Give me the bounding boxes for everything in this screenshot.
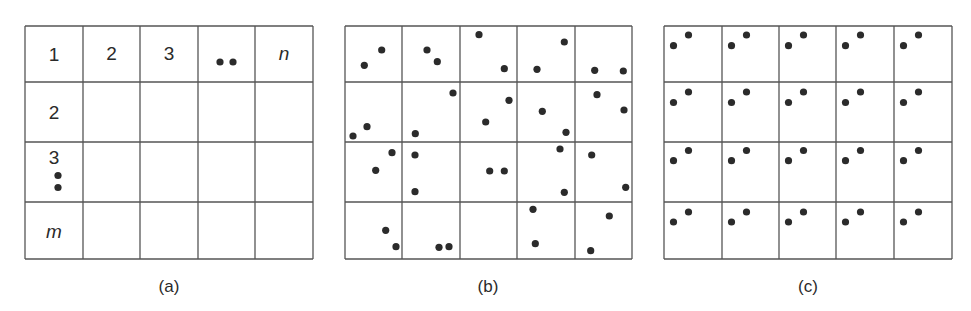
dot — [800, 88, 807, 95]
dot — [842, 42, 849, 49]
dot — [54, 184, 61, 191]
dot — [685, 208, 692, 215]
dot — [743, 147, 750, 154]
dot — [685, 147, 692, 154]
dot — [435, 244, 442, 251]
dot — [670, 157, 677, 164]
dot — [915, 208, 922, 215]
row-header-1: 1 — [49, 44, 60, 65]
caption-a: (a) — [159, 277, 180, 296]
row-header-3: 3 — [49, 147, 60, 168]
dot — [915, 88, 922, 95]
dot — [857, 31, 864, 38]
dot — [412, 130, 419, 137]
dot — [743, 88, 750, 95]
dot — [411, 188, 418, 195]
dot — [349, 132, 356, 139]
dot — [529, 206, 536, 213]
figure-canvas: 23n123m (a) (b) (c) — [0, 0, 971, 311]
dot — [556, 145, 563, 152]
column-header-n: n — [279, 43, 290, 64]
dot — [620, 67, 627, 74]
dot — [562, 129, 569, 136]
dot — [475, 31, 482, 38]
dot — [388, 149, 395, 156]
dot — [900, 42, 907, 49]
dot — [501, 65, 508, 72]
dot — [728, 218, 735, 225]
dot — [606, 212, 613, 219]
dot — [378, 46, 385, 53]
dot — [900, 99, 907, 106]
dot — [423, 46, 430, 53]
panel-b-random-dots — [345, 26, 632, 259]
dot — [449, 89, 456, 96]
dot — [505, 97, 512, 104]
dot — [445, 243, 452, 250]
dot — [216, 58, 223, 65]
dot — [434, 58, 441, 65]
dot — [501, 167, 508, 174]
row-header-2: 2 — [49, 102, 60, 123]
dot — [900, 218, 907, 225]
dot — [670, 99, 677, 106]
dot — [593, 91, 600, 98]
dot — [532, 240, 539, 247]
dot — [785, 157, 792, 164]
panel-c-uniform-dots — [664, 26, 952, 259]
dot — [857, 208, 864, 215]
dot — [372, 167, 379, 174]
row-header-m: m — [46, 221, 62, 242]
dot — [482, 118, 489, 125]
dot — [785, 99, 792, 106]
dot — [620, 106, 627, 113]
dot — [392, 243, 399, 250]
dot — [670, 42, 677, 49]
dot — [670, 218, 677, 225]
dot — [800, 208, 807, 215]
dot — [857, 147, 864, 154]
dot — [842, 157, 849, 164]
dot — [915, 147, 922, 154]
dot — [857, 88, 864, 95]
dot — [842, 99, 849, 106]
dot — [728, 42, 735, 49]
caption-b: (b) — [478, 277, 499, 296]
dot — [587, 247, 594, 254]
caption-c: (c) — [798, 277, 818, 296]
column-header-2: 2 — [106, 43, 117, 64]
dot — [743, 31, 750, 38]
dot — [486, 167, 493, 174]
dot — [561, 38, 568, 45]
dot — [685, 31, 692, 38]
dot — [533, 66, 540, 73]
dot — [728, 99, 735, 106]
column-header-3: 3 — [164, 43, 175, 64]
dot — [588, 151, 595, 158]
dot — [900, 157, 907, 164]
dot — [591, 67, 598, 74]
dot — [363, 123, 370, 130]
dot — [382, 227, 389, 234]
dot — [622, 184, 629, 191]
dot — [229, 58, 236, 65]
dot — [785, 42, 792, 49]
dot — [743, 208, 750, 215]
dot — [561, 189, 568, 196]
dot — [800, 31, 807, 38]
dot — [728, 157, 735, 164]
dot — [361, 62, 368, 69]
dot — [800, 147, 807, 154]
dot — [539, 108, 546, 115]
dot — [411, 151, 418, 158]
dot — [785, 218, 792, 225]
dot — [685, 88, 692, 95]
dot — [915, 31, 922, 38]
dot — [842, 218, 849, 225]
dot — [54, 172, 61, 179]
panel-a-grid: 23n123m — [25, 26, 313, 259]
